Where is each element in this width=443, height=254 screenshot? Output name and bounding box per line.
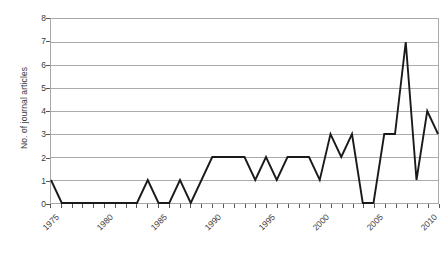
x-axis-tick-mark bbox=[169, 204, 170, 208]
series-polyline bbox=[51, 42, 438, 203]
x-axis-tick-mark bbox=[363, 204, 364, 208]
x-axis-tick-label: 1985 bbox=[142, 212, 169, 239]
x-axis-tick-mark bbox=[428, 204, 429, 208]
x-axis-tick-mark bbox=[201, 204, 202, 208]
x-axis-tick-label: 2010 bbox=[412, 212, 439, 239]
x-axis-tick-mark bbox=[158, 204, 159, 208]
y-axis-tick-label: 6 bbox=[26, 60, 46, 70]
x-axis-tick-mark bbox=[396, 204, 397, 208]
x-axis-tick-mark bbox=[147, 204, 148, 208]
x-axis-tick-mark bbox=[180, 204, 181, 208]
x-axis-tick-mark bbox=[245, 204, 246, 208]
x-axis-tick-label: 1975 bbox=[34, 212, 61, 239]
x-axis-tick-mark bbox=[331, 204, 332, 208]
x-axis-tick-label: 1990 bbox=[196, 212, 223, 239]
x-axis-tick-mark bbox=[72, 204, 73, 208]
x-axis-tick-label: 2005 bbox=[358, 212, 385, 239]
plot-area bbox=[50, 18, 439, 204]
x-axis-tick-mark bbox=[277, 204, 278, 208]
x-axis-tick-mark bbox=[407, 204, 408, 208]
x-axis-tick-mark bbox=[342, 204, 343, 208]
x-axis-tick-mark bbox=[439, 204, 440, 208]
y-axis-tick-label: 2 bbox=[26, 153, 46, 163]
x-axis-tick-mark bbox=[385, 204, 386, 208]
x-axis-tick-mark bbox=[93, 204, 94, 208]
data-series-line bbox=[51, 19, 438, 203]
x-axis-tick-mark bbox=[190, 204, 191, 208]
x-axis-tick-mark bbox=[126, 204, 127, 208]
y-axis-tick-label: 3 bbox=[26, 129, 46, 139]
x-axis-tick-mark bbox=[223, 204, 224, 208]
x-axis-tick-mark bbox=[353, 204, 354, 208]
x-axis-tick-mark bbox=[374, 204, 375, 208]
x-axis-tick-label: 2000 bbox=[304, 212, 331, 239]
x-axis-tick-mark bbox=[255, 204, 256, 208]
x-axis-tick-mark bbox=[309, 204, 310, 208]
y-axis-tick-label: 5 bbox=[26, 83, 46, 93]
y-axis-tick-label: 7 bbox=[26, 36, 46, 46]
line-chart: No. of journal articles 012345678 197519… bbox=[0, 0, 443, 254]
x-axis-tick-mark bbox=[104, 204, 105, 208]
x-axis-tick-mark bbox=[266, 204, 267, 208]
x-axis-tick-mark bbox=[136, 204, 137, 208]
y-axis-tick-label: 4 bbox=[26, 106, 46, 116]
x-axis-tick-mark bbox=[299, 204, 300, 208]
y-axis-tick-labels: 012345678 bbox=[22, 18, 46, 204]
x-axis-tick-mark bbox=[50, 204, 51, 208]
x-axis-tick-mark bbox=[320, 204, 321, 208]
x-axis-tick-mark bbox=[288, 204, 289, 208]
x-axis-tick-mark bbox=[61, 204, 62, 208]
x-axis-tick-mark bbox=[234, 204, 235, 208]
x-axis-tick-label: 1980 bbox=[88, 212, 115, 239]
y-axis-tick-label: 0 bbox=[26, 199, 46, 209]
x-axis-tick-mark bbox=[417, 204, 418, 208]
y-axis-tick-label: 1 bbox=[26, 176, 46, 186]
x-axis-tick-label: 1995 bbox=[250, 212, 277, 239]
x-axis-tick-mark bbox=[115, 204, 116, 208]
x-axis-tick-mark bbox=[82, 204, 83, 208]
y-axis-tick-label: 8 bbox=[26, 13, 46, 23]
x-axis-tick-mark bbox=[212, 204, 213, 208]
